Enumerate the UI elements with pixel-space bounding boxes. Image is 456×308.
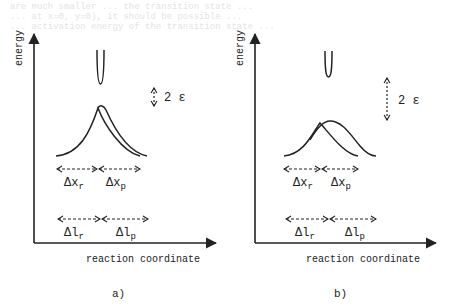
reactant-potential-curve [284, 123, 358, 156]
reactant-potential-curve [56, 108, 140, 156]
delta-l-product-label: Δlp [345, 226, 365, 242]
panel-a: energy reaction coordinate 2 ε Δxr Δxp Δ… [14, 30, 216, 300]
delta-l-reactant-label: Δlr [295, 226, 315, 242]
panel-b-caption: b) [334, 288, 347, 300]
delta-x-product-label: Δxp [331, 176, 351, 192]
reaction-coordinate-label: reaction coordinate [86, 254, 200, 265]
product-potential-curve [310, 121, 376, 156]
gap-label: 2 ε [164, 91, 186, 105]
reaction-coordinate-label: reaction coordinate [306, 254, 420, 265]
energy-axis-label: energy [235, 30, 246, 66]
delta-x-reactant-label: Δxr [64, 176, 84, 192]
panel-b: energy reaction coordinate 2 ε Δxr Δxp Δ… [235, 30, 436, 300]
energy-axis-label: energy [14, 30, 25, 66]
product-potential-curve [98, 106, 147, 156]
delta-x-product-label: Δxp [106, 176, 126, 192]
delta-l-reactant-label: Δlr [64, 226, 84, 242]
upper-potential-curve [97, 50, 104, 84]
delta-l-product-label: Δlp [116, 226, 136, 242]
upper-potential-curve [325, 51, 332, 77]
panel-a-caption: a) [112, 288, 125, 300]
gap-label: 2 ε [398, 94, 420, 108]
delta-x-reactant-label: Δxr [293, 176, 313, 192]
